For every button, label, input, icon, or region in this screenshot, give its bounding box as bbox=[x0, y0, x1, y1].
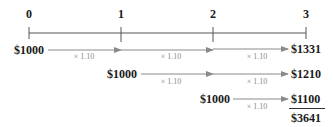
row3-start-amount: $1000 bbox=[200, 92, 230, 107]
row3-end-amount: $1100 bbox=[291, 92, 320, 107]
period-label-2: 2 bbox=[210, 7, 216, 22]
row2-multiplier-1: × 1.10 bbox=[161, 77, 182, 86]
row2-end-amount: $1210 bbox=[291, 67, 321, 82]
row3-multiplier-1: × 1.10 bbox=[247, 102, 268, 111]
period-label-3: 3 bbox=[303, 7, 309, 22]
sum-divider bbox=[289, 108, 325, 109]
row2-multiplier-2: × 1.10 bbox=[247, 77, 268, 86]
period-label-0: 0 bbox=[26, 7, 32, 22]
row2-start-amount: $1000 bbox=[107, 67, 137, 82]
row1-start-amount: $1000 bbox=[14, 43, 44, 58]
row1-end-amount: $1331 bbox=[291, 42, 321, 57]
period-label-1: 1 bbox=[118, 7, 124, 22]
total-amount: $3641 bbox=[291, 111, 321, 126]
row1-multiplier-2: × 1.10 bbox=[161, 52, 182, 61]
row1-multiplier-3: × 1.10 bbox=[247, 52, 268, 61]
row1-multiplier-1: × 1.10 bbox=[74, 52, 95, 61]
timeline-diagram bbox=[0, 0, 333, 127]
